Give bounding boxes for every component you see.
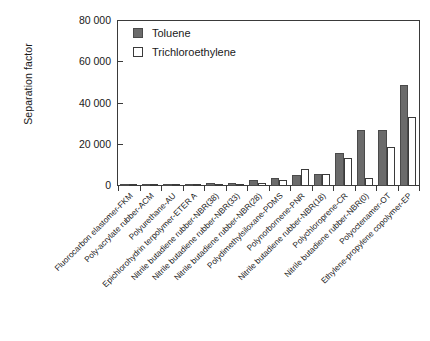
x-tick-mark — [269, 186, 270, 191]
x-tick-mark — [355, 186, 356, 191]
legend-swatch-trichloroethylene — [133, 47, 143, 57]
bar-toluene — [249, 180, 257, 186]
legend-item-toluene: Toluene — [133, 23, 236, 42]
bar-trichloroethylene — [322, 174, 330, 186]
legend-swatch-toluene — [133, 28, 143, 38]
bar-group — [247, 21, 269, 186]
bar-toluene — [271, 178, 279, 186]
bar-toluene — [120, 184, 128, 186]
bar-trichloroethylene — [172, 184, 180, 186]
x-tick-mark — [290, 186, 291, 191]
x-tick-mark — [376, 186, 377, 191]
bar-group — [376, 21, 398, 186]
bar-toluene — [378, 130, 386, 186]
bar-toluene — [142, 184, 150, 186]
bar-toluene — [400, 85, 408, 186]
x-tick-mark — [226, 186, 227, 191]
bar-toluene — [185, 184, 193, 186]
y-axis-title: Separation factor — [22, 4, 34, 164]
y-tick-label: 80 000 — [41, 15, 111, 26]
bar-trichloroethylene — [150, 184, 158, 186]
bar-trichloroethylene — [129, 184, 137, 186]
bar-toluene — [335, 153, 343, 186]
bar-toluene — [206, 183, 214, 186]
bar-group — [398, 21, 420, 186]
bar-group — [355, 21, 377, 186]
bar-trichloroethylene — [408, 117, 416, 186]
bar-toluene — [314, 174, 322, 186]
x-tick-mark — [312, 186, 313, 191]
x-tick-mark — [161, 186, 162, 191]
bar-trichloroethylene — [215, 184, 223, 186]
x-tick-mark — [118, 186, 119, 191]
separation-factor-bar-chart: Separation factor 020 00040 00060 00080 … — [0, 0, 430, 341]
legend-label-trichloroethylene: Trichloroethylene — [152, 46, 236, 58]
x-tick-mark — [398, 186, 399, 191]
bar-group — [333, 21, 355, 186]
legend-item-trichloroethylene: Trichloroethylene — [133, 42, 236, 61]
bar-toluene — [228, 183, 236, 186]
bar-trichloroethylene — [258, 183, 266, 187]
bar-trichloroethylene — [279, 180, 287, 186]
y-tick-label: 0 — [41, 180, 111, 191]
x-tick-mark — [247, 186, 248, 191]
y-tick-label: 60 000 — [41, 56, 111, 67]
bar-toluene — [292, 175, 300, 186]
x-tick-mark — [204, 186, 205, 191]
bar-trichloroethylene — [344, 158, 352, 186]
bar-toluene — [163, 184, 171, 186]
x-tick-mark — [419, 186, 420, 191]
bar-group — [269, 21, 291, 186]
bar-trichloroethylene — [301, 169, 309, 186]
y-tick-label: 40 000 — [41, 98, 111, 109]
bar-trichloroethylene — [387, 147, 395, 186]
y-tick-label: 20 000 — [41, 139, 111, 150]
x-tick-mark — [183, 186, 184, 191]
bar-trichloroethylene — [236, 184, 244, 186]
bar-trichloroethylene — [365, 178, 373, 186]
bar-toluene — [357, 130, 365, 186]
x-tick-mark — [333, 186, 334, 191]
bar-group — [290, 21, 312, 186]
x-tick-mark — [140, 186, 141, 191]
bar-trichloroethylene — [193, 184, 201, 186]
legend-label-toluene: Toluene — [152, 27, 191, 39]
bar-group — [312, 21, 334, 186]
chart-legend: Toluene Trichloroethylene — [133, 23, 236, 61]
